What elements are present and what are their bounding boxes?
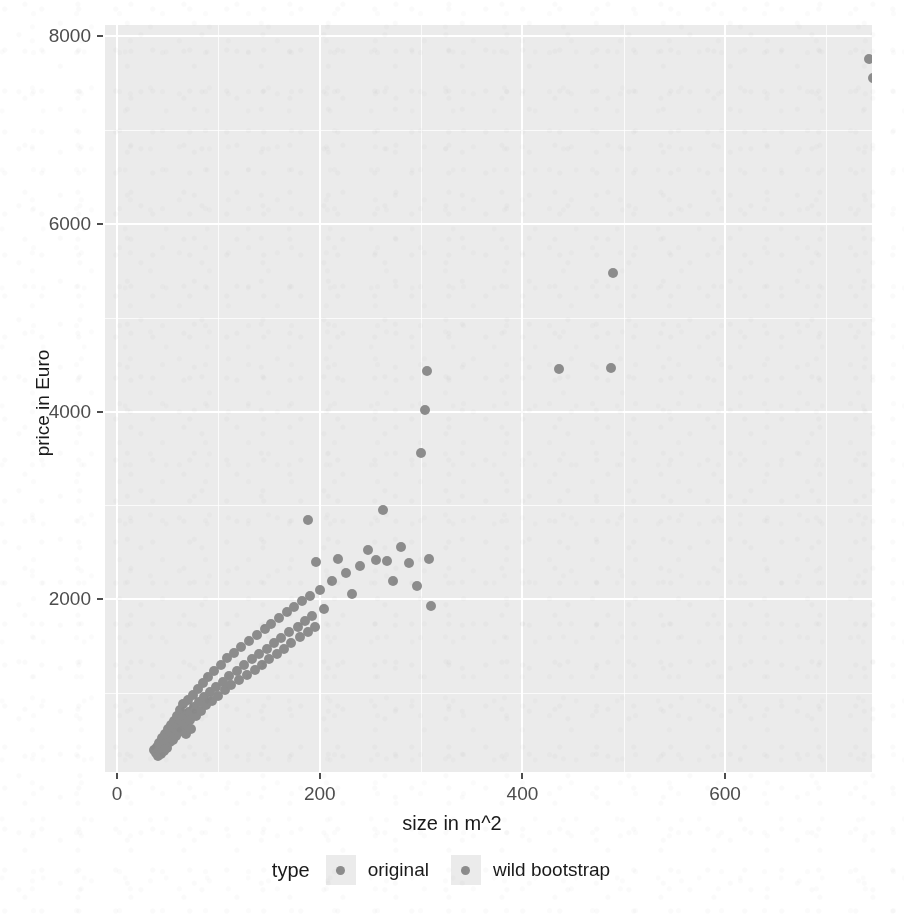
y-tick-mark xyxy=(97,411,103,413)
scatter-point xyxy=(388,576,398,586)
x-tick-label: 400 xyxy=(462,783,582,805)
scatter-point xyxy=(315,585,325,595)
x-tick-mark xyxy=(521,773,523,779)
scatter-point xyxy=(333,554,343,564)
scatter-point xyxy=(341,568,351,578)
x-axis-title: size in m^2 xyxy=(0,812,904,835)
gridline-horizontal-major xyxy=(105,35,872,37)
plot-panel xyxy=(105,25,872,772)
scatter-point xyxy=(382,556,392,566)
scatter-point xyxy=(416,448,426,458)
cropped-header-text xyxy=(0,0,904,7)
scatter-point xyxy=(404,558,414,568)
x-tick-label: 0 xyxy=(57,783,177,805)
legend-item-label: wild bootstrap xyxy=(493,859,610,881)
scatter-point xyxy=(426,601,436,611)
scatter-point xyxy=(347,589,357,599)
y-tick-mark xyxy=(97,223,103,225)
scatter-point xyxy=(422,366,432,376)
scatter-point xyxy=(606,363,616,373)
scatter-point xyxy=(305,591,315,601)
scatter-point xyxy=(608,268,618,278)
gridline-horizontal-minor xyxy=(105,318,872,319)
y-tick-mark xyxy=(97,598,103,600)
scatter-point xyxy=(319,604,329,614)
gridline-vertical-major xyxy=(724,25,726,772)
scatter-point xyxy=(554,364,564,374)
scatter-point xyxy=(303,515,313,525)
scatter-point xyxy=(371,555,381,565)
scatter-point xyxy=(420,405,430,415)
gridline-horizontal-minor xyxy=(105,130,872,131)
scatter-point xyxy=(363,545,373,555)
scatter-point xyxy=(424,554,434,564)
gridline-vertical-major xyxy=(521,25,523,772)
scatter-point xyxy=(307,611,317,621)
scatter-point xyxy=(327,576,337,586)
y-axis-title: price in Euro xyxy=(32,123,54,683)
gridline-vertical-minor xyxy=(624,25,625,772)
x-tick-label: 600 xyxy=(665,783,785,805)
scatter-point xyxy=(868,73,872,83)
gridline-horizontal-major xyxy=(105,223,872,225)
y-tick-label: 8000 xyxy=(0,25,91,47)
x-tick-mark xyxy=(116,773,118,779)
gridline-vertical-minor xyxy=(826,25,827,772)
scatter-point xyxy=(310,622,320,632)
scatter-point xyxy=(378,505,388,515)
gridline-horizontal-major xyxy=(105,411,872,413)
gridline-horizontal-major xyxy=(105,598,872,600)
chart-figure: 2000400060008000 0200400600 price in Eur… xyxy=(0,0,904,919)
x-tick-mark xyxy=(724,773,726,779)
gridline-horizontal-minor xyxy=(105,505,872,506)
legend-title: type xyxy=(272,859,310,882)
scatter-point xyxy=(864,54,872,64)
legend-item-label: original xyxy=(368,859,429,881)
gridline-vertical-major xyxy=(116,25,118,772)
scatter-point xyxy=(311,557,321,567)
scan-artifacts xyxy=(0,880,904,919)
scatter-point xyxy=(396,542,406,552)
gridline-vertical-major xyxy=(319,25,321,772)
x-tick-mark xyxy=(319,773,321,779)
x-tick-label: 200 xyxy=(260,783,380,805)
scatter-point xyxy=(186,724,196,734)
scatter-point xyxy=(355,561,365,571)
y-tick-mark xyxy=(97,35,103,37)
gridline-vertical-minor xyxy=(421,25,422,772)
